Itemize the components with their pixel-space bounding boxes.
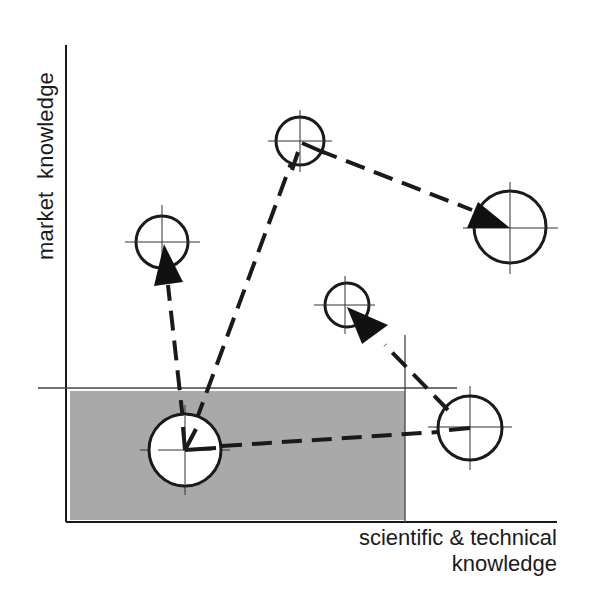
path-a-to-c [196, 158, 293, 421]
x-axis-label-line2: knowledge [359, 551, 557, 577]
x-axis-label-line1: scientific & technical [359, 525, 557, 551]
node-c [268, 110, 332, 172]
node-b [125, 205, 200, 286]
node-e [314, 276, 388, 344]
path-c-to-d [318, 150, 472, 210]
knowledge-diagram [0, 0, 589, 606]
node-d [463, 182, 558, 274]
x-axis-label: scientific & technical knowledge [359, 525, 557, 577]
node-f [428, 386, 512, 470]
y-axis-label: market knowledge [33, 72, 59, 260]
shaded-region [70, 391, 405, 520]
